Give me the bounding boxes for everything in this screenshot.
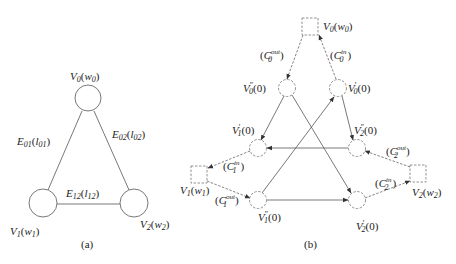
label-v0: V0(w0)	[70, 70, 100, 84]
label-v2: V2(w2)	[140, 218, 170, 232]
circle-v1pp	[250, 192, 267, 209]
label-c2in: (Cin2)	[375, 176, 396, 192]
circle-v2pp	[349, 140, 366, 157]
square-v2	[410, 165, 426, 182]
label-sq-v1: V1(w1)	[180, 184, 210, 198]
label-c0out: (Cout0)	[260, 48, 284, 64]
label-e01: E01(l01)	[16, 135, 50, 149]
square-v1	[191, 166, 207, 183]
label-v1pp: V″1(0)	[258, 210, 281, 225]
label-v0p: V′0(0)	[348, 81, 371, 96]
label-sq-v2: V2(w2)	[412, 186, 442, 200]
circle-v2p	[349, 192, 366, 209]
node-v0	[75, 85, 101, 111]
square-v0	[302, 18, 318, 35]
label-c1in: (Cin1)	[223, 159, 244, 175]
panel-b-dashed-edges	[207, 35, 410, 198]
circle-v0p	[330, 80, 347, 97]
label-e02: E02(l02)	[111, 128, 145, 142]
network-diagram: V0(w0) E01(l01) E02(l02) E12(l12) V1(w1)…	[0, 0, 456, 264]
label-v1: V1(w1)	[10, 225, 40, 239]
label-v0pp: V″0(0)	[243, 81, 266, 96]
label-sq-v0: V0(w0)	[323, 20, 353, 34]
label-v2pp: V″2(0)	[354, 123, 377, 138]
edge-e01	[48, 111, 82, 190]
label-c1out: (Cout1)	[215, 193, 239, 209]
label-c0in: (Cin0)	[330, 48, 351, 64]
caption-b: (b)	[304, 238, 317, 251]
circle-v1p	[250, 140, 267, 157]
label-v2p: V′2(0)	[356, 219, 379, 234]
node-v1	[29, 189, 57, 217]
label-e12: E12(l12)	[65, 187, 99, 201]
label-v1p: V′1(0)	[232, 123, 255, 138]
panel-b-solid-edges	[261, 95, 353, 200]
label-c2out: (Cout2)	[386, 144, 410, 160]
edge-e02	[94, 111, 129, 190]
circle-v0pp	[279, 80, 296, 97]
node-v2	[120, 189, 148, 217]
caption-a: (a)	[81, 238, 94, 251]
